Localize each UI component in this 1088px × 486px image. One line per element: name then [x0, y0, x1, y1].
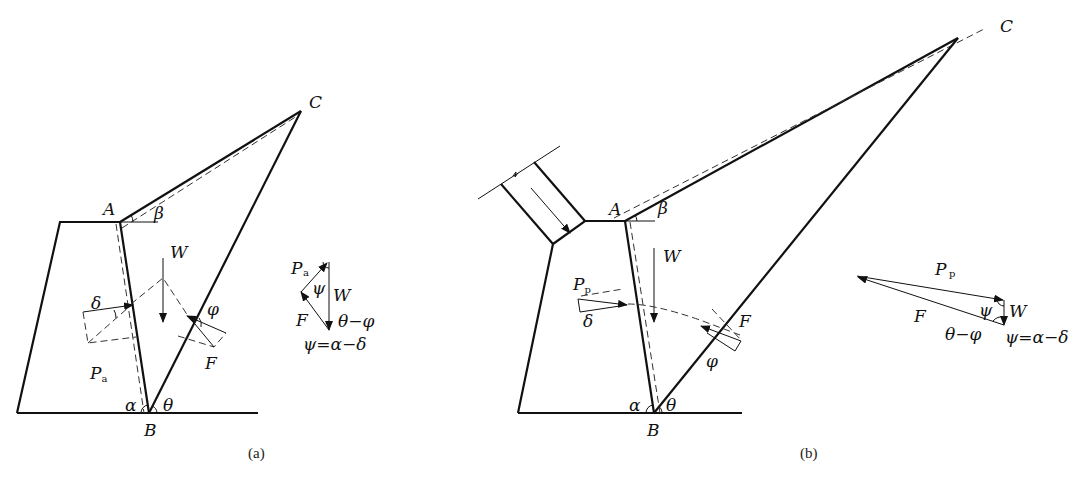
svg-text:p: p — [949, 268, 955, 279]
svg-text:θ−φ: θ−φ — [945, 324, 981, 344]
slip-plane-b — [654, 38, 958, 413]
svg-text:F: F — [295, 310, 309, 330]
svg-text:a: a — [303, 267, 309, 278]
svg-text:ψ=α−δ: ψ=α−δ — [303, 334, 367, 354]
point-b-label: B — [646, 420, 660, 440]
pa-label: Pa — [89, 363, 107, 384]
svg-text:P: P — [934, 259, 947, 279]
beta-label: β — [153, 203, 164, 223]
caption-a: (a) — [248, 445, 265, 462]
svg-text:ψ=α−δ: ψ=α−δ — [1005, 327, 1069, 347]
action-line-b — [628, 304, 740, 335]
svg-text:W: W — [1009, 301, 1028, 321]
phi-label: φ — [706, 351, 718, 371]
f-label: F — [204, 353, 218, 373]
force-triangle-b: P p ψ W F θ−φ ψ=α−δ — [857, 259, 1069, 347]
alpha-label: α — [125, 395, 137, 415]
action-lines-a — [131, 278, 188, 316]
phi-arc-a — [199, 318, 201, 327]
pa-box-a — [83, 312, 136, 343]
f-label: F — [738, 311, 752, 331]
slip-plane-a — [149, 111, 301, 413]
svg-text:W: W — [333, 285, 352, 305]
svg-text:θ−φ: θ−φ — [338, 311, 374, 331]
wall-outline-a — [17, 222, 149, 413]
point-b-label: B — [143, 420, 157, 440]
figure-a: A B C β α θ W δ φ F Pa P a ψ W F θ−φ ψ=α… — [17, 92, 374, 462]
caption-b: (b) — [800, 445, 818, 462]
point-a-label: A — [607, 199, 621, 219]
pp-arrow-b — [578, 299, 627, 305]
pp-label: Pp — [572, 274, 591, 295]
strut-break-line-b — [478, 146, 560, 199]
backfill-surface-dash-b — [614, 28, 986, 218]
figure-b: A B C β α θ W δ φ F Pp P p ψ W F θ−φ ψ=α… — [478, 16, 1069, 462]
theta-label: θ — [666, 395, 676, 415]
diagram-canvas: A B C β α θ W δ φ F Pa P a ψ W F θ−φ ψ=α… — [0, 0, 1088, 486]
wall-back-dash-b — [630, 222, 660, 413]
theta-label: θ — [163, 395, 173, 415]
force-triangle-a: P a ψ W F θ−φ ψ=α−δ — [290, 258, 374, 354]
point-c-label: C — [1000, 16, 1013, 36]
wall-back-dash-a — [116, 224, 144, 413]
point-c-label: C — [309, 92, 322, 112]
point-a-label: A — [101, 199, 115, 219]
alpha-label: α — [629, 395, 641, 415]
strut-right-b — [534, 162, 585, 221]
svg-text:ψ: ψ — [312, 278, 326, 298]
beta-label: β — [657, 198, 668, 218]
beta-arc-b — [635, 215, 637, 221]
delta-label: δ — [91, 293, 101, 313]
delta-label: δ — [583, 311, 593, 331]
svg-text:ψ: ψ — [979, 300, 993, 320]
beta-arc-a — [131, 215, 133, 222]
w-label: W — [170, 242, 189, 262]
phi-label: φ — [207, 299, 219, 319]
svg-text:F: F — [913, 306, 927, 326]
svg-text:P: P — [290, 258, 303, 278]
backfill-surface-b — [625, 38, 958, 221]
delta-arc-a — [114, 310, 116, 318]
strut-left-b — [501, 184, 553, 244]
w-label: W — [663, 246, 682, 266]
